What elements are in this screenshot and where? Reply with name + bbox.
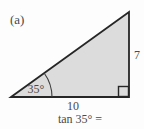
height-length-label: 7 xyxy=(134,48,140,62)
trigonometry-diagram: (a) 35° 10 7 tan 35° = xyxy=(0,0,144,129)
angle-label: 35° xyxy=(28,82,45,96)
base-length-label: 10 xyxy=(67,99,79,113)
part-label: (a) xyxy=(10,12,24,27)
caption-equation: tan 35° = xyxy=(58,112,102,126)
diagram-canvas: (a) 35° 10 7 tan 35° = xyxy=(0,0,144,129)
